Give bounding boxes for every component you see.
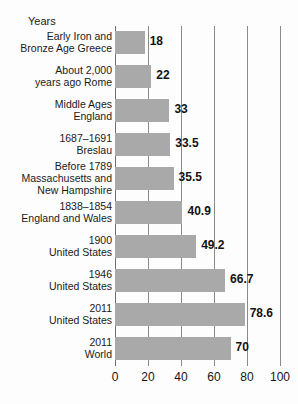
bar — [115, 133, 170, 156]
bar-value-label: 70 — [236, 340, 249, 355]
bar-value-label: 18 — [150, 34, 163, 49]
bar-row: 49.2 — [115, 230, 280, 264]
bar-value-label: 33.5 — [175, 136, 198, 151]
category-label-line: England and Wales — [0, 212, 112, 224]
bar-row: 33 — [115, 94, 280, 128]
category-label-line: Bronze Age Greece — [0, 42, 112, 54]
category-label-line: 1687–1691 — [0, 132, 112, 144]
x-axis: 020406080100 — [0, 366, 298, 388]
bar-row: 35.5 — [115, 162, 280, 196]
category-label-line: United States — [0, 246, 112, 258]
x-tick-label-100: 100 — [270, 370, 290, 384]
x-tick-label-60: 60 — [207, 370, 220, 384]
category-label-line: 1900 — [0, 234, 112, 246]
gridline-100 — [280, 26, 281, 366]
category-label-line: United States — [0, 314, 112, 326]
bar-row: 40.9 — [115, 196, 280, 230]
category-label-line: Early Iron and — [0, 30, 112, 42]
bar-row: 66.7 — [115, 264, 280, 298]
x-tick-label-80: 80 — [240, 370, 253, 384]
category-label-line: About 2,000 — [0, 64, 112, 76]
bar — [115, 303, 245, 326]
x-tick-label-40: 40 — [174, 370, 187, 384]
category-label-line: Massachusetts and — [0, 172, 112, 184]
x-tick-label-20: 20 — [141, 370, 154, 384]
bar-value-label: 78.6 — [250, 306, 273, 321]
bar-value-label: 40.9 — [187, 204, 210, 219]
category-label-line: 2011 — [0, 336, 112, 348]
category-label: 1946United States — [0, 268, 112, 292]
bar — [115, 31, 145, 54]
category-label-line: 2011 — [0, 302, 112, 314]
bar-value-label: 49.2 — [201, 238, 224, 253]
axis-title: Years — [28, 15, 56, 27]
category-label-line: United States — [0, 280, 112, 292]
bar — [115, 65, 151, 88]
category-label-line: 1838–1854 — [0, 200, 112, 212]
category-label: Before 1789Massachusetts andNew Hampshir… — [0, 160, 112, 196]
category-label-line: Breslau — [0, 144, 112, 156]
bar-value-label: 22 — [156, 68, 169, 83]
category-label: 1687–1691Breslau — [0, 132, 112, 156]
category-label-line: New Hampshire — [0, 184, 112, 196]
bar-value-label: 35.5 — [179, 170, 202, 185]
plot-area: 18223333.535.540.949.266.778.670 — [115, 26, 280, 366]
category-label-line: years ago Rome — [0, 76, 112, 88]
bar-row: 70 — [115, 332, 280, 366]
bar-row: 22 — [115, 60, 280, 94]
category-label: 1900United States — [0, 234, 112, 258]
bar-value-label: 33 — [174, 102, 187, 117]
category-label-line: England — [0, 110, 112, 122]
category-label: 2011World — [0, 336, 112, 360]
category-label-line: Before 1789 — [0, 160, 112, 172]
category-label: 2011United States — [0, 302, 112, 326]
bar — [115, 337, 231, 360]
bar — [115, 235, 196, 258]
category-label: About 2,000years ago Rome — [0, 64, 112, 88]
category-label-line: 1946 — [0, 268, 112, 280]
bar — [115, 269, 225, 292]
category-label: Early Iron andBronze Age Greece — [0, 30, 112, 54]
life-expectancy-bar-chart: Years 18223333.535.540.949.266.778.670 E… — [0, 0, 298, 404]
bar-row: 18 — [115, 26, 280, 60]
category-label: 1838–1854England and Wales — [0, 200, 112, 224]
bar-row: 33.5 — [115, 128, 280, 162]
bar-value-label: 66.7 — [230, 272, 253, 287]
x-tick-label-0: 0 — [112, 370, 119, 384]
category-label-line: Middle Ages — [0, 98, 112, 110]
bar — [115, 99, 169, 122]
category-label-line: World — [0, 348, 112, 360]
bar-row: 78.6 — [115, 298, 280, 332]
bar — [115, 167, 174, 190]
category-label: Middle AgesEngland — [0, 98, 112, 122]
bar — [115, 201, 182, 224]
